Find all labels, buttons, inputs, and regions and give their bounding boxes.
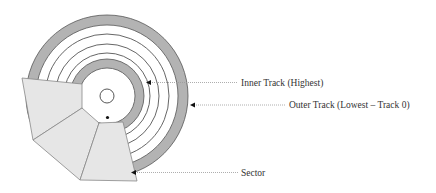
sector-label: Sector — [241, 168, 266, 178]
disk-diagram: Inner Track (Highest) Outer Track (Lowes… — [0, 0, 436, 193]
inner-track-label: Inner Track (Highest) — [241, 78, 323, 89]
spindle-hole — [100, 89, 114, 103]
arrowhead-icon — [190, 103, 195, 108]
index-dot — [106, 116, 109, 119]
outer-track-label: Outer Track (Lowest – Track 0) — [289, 100, 410, 111]
